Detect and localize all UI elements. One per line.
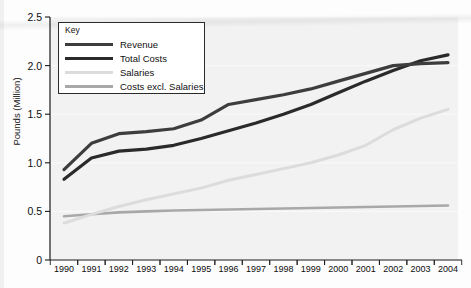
legend-entry[interactable]: Revenue <box>65 38 204 51</box>
y-axis-title: Pounds (Million) <box>11 52 22 172</box>
legend-swatch-line-icon <box>65 57 113 60</box>
x-tick-label: 1995 <box>191 264 211 274</box>
scan-artifact-left-edge <box>0 0 4 288</box>
x-tick-label: 1997 <box>246 264 266 274</box>
legend-entry[interactable]: Costs excl. Salaries <box>65 80 204 93</box>
x-tick-label: 2004 <box>438 264 458 274</box>
chart-legend: Key RevenueTotal CostsSalariesCosts excl… <box>58 22 205 94</box>
x-tick-label: 1992 <box>109 264 129 274</box>
x-tick-label: 1990 <box>54 264 74 274</box>
x-tick-label: 2001 <box>356 264 376 274</box>
x-tick-label: 1998 <box>273 264 293 274</box>
x-tick-label: 1994 <box>164 264 184 274</box>
legend-entries: RevenueTotal CostsSalariesCosts excl. Sa… <box>65 38 204 93</box>
x-tick-label: 2003 <box>411 264 431 274</box>
legend-title: Key <box>65 26 204 35</box>
legend-label: Salaries <box>120 67 154 78</box>
legend-label: Costs excl. Salaries <box>120 81 203 92</box>
legend-label: Total Costs <box>120 53 167 64</box>
x-tick-label: 1993 <box>136 264 156 274</box>
legend-swatch-line-icon <box>65 43 113 46</box>
legend-swatch-line-icon <box>65 85 113 88</box>
x-tick-label: 2000 <box>328 264 348 274</box>
x-tick-label: 1991 <box>81 264 101 274</box>
x-tick-label: 1999 <box>301 264 321 274</box>
legend-entry[interactable]: Salaries <box>65 66 204 79</box>
x-tick-label: 1996 <box>219 264 239 274</box>
legend-entry[interactable]: Total Costs <box>65 52 204 65</box>
legend-label: Revenue <box>120 39 158 50</box>
line-chart: 00.51.01.52.02.5 19901991199219931994199… <box>0 0 471 288</box>
x-tick-label: 2002 <box>383 264 403 274</box>
legend-swatch-line-icon <box>65 71 113 74</box>
